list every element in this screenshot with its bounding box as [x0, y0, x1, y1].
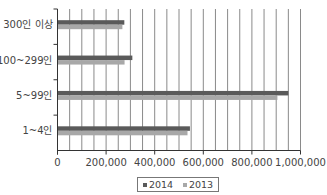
bar-2014 — [58, 56, 133, 61]
category-label: 1~4인 — [22, 125, 52, 136]
x-tick-label: 0 — [54, 157, 60, 168]
bar-2013 — [58, 131, 188, 136]
x-tick-label: 800,000 — [231, 157, 272, 168]
legend-label-2014: 2014 — [149, 179, 173, 190]
x-tick-label: 600,000 — [183, 157, 224, 168]
bar-2014 — [58, 20, 125, 25]
legend-swatch-2014 — [143, 183, 147, 187]
legend: 2014 2013 — [137, 177, 219, 192]
category-label: 300인 이상 — [3, 19, 52, 30]
x-tick-label: 200,000 — [85, 157, 126, 168]
legend-item-2014: 2014 — [143, 179, 173, 190]
bar-2014 — [58, 126, 190, 131]
legend-swatch-2013 — [183, 183, 187, 187]
legend-item-2013: 2013 — [183, 179, 213, 190]
legend-label-2013: 2013 — [189, 179, 213, 190]
category-label: 100~299인 — [0, 55, 53, 66]
bar-2013 — [58, 60, 125, 65]
bar-2014 — [58, 91, 289, 96]
x-tick-label: 1,000,000 — [275, 157, 326, 168]
bar-2013 — [58, 25, 123, 30]
category-label: 5~99인 — [16, 90, 52, 101]
bar-chart: 300인 이상100~299인5~99인1~4인0200,000400,0006… — [0, 0, 327, 195]
x-tick-label: 400,000 — [134, 157, 175, 168]
bar-2013 — [58, 95, 278, 100]
